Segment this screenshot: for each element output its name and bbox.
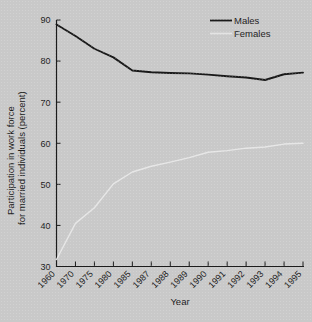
y-tick-label: 70 (40, 98, 50, 108)
y-axis-title: Participation in work force for married … (5, 91, 27, 225)
chart-canvas: 30405060708090 1960197019751980198519871… (0, 0, 312, 322)
y-tick-label: 40 (40, 221, 50, 231)
legend-label-males: Males (234, 15, 260, 26)
legend-label-females: Females (234, 28, 271, 39)
x-axis-title: Year (170, 296, 189, 307)
y-axis-title-line2: for married individuals (percent) (16, 91, 27, 225)
y-axis-title-line1: Participation in work force (5, 106, 16, 215)
y-tick-label: 60 (40, 139, 50, 149)
y-tick-label: 50 (40, 180, 50, 190)
y-tick-label: 80 (40, 56, 50, 66)
y-tick-label: 90 (40, 15, 50, 25)
line-chart: 30405060708090 1960197019751980198519871… (0, 0, 312, 322)
